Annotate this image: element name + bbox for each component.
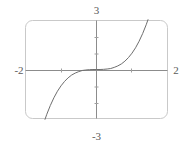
y-max-label: 3 [94, 4, 100, 16]
x-min-label: -2 [14, 64, 23, 76]
graph-widget[interactable]: 3 -3 -2 2 [0, 0, 190, 146]
x-max-label: 2 [173, 64, 179, 76]
plot-canvas[interactable]: 3 -3 -2 2 [0, 0, 190, 146]
y-min-label: -3 [92, 130, 102, 142]
